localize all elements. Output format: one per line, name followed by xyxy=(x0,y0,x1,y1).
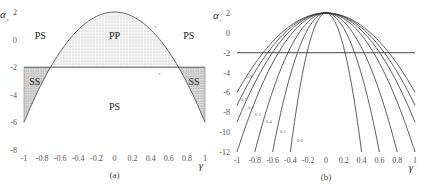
x-tick-label: -0.6 xyxy=(266,156,279,165)
series-curve-0.6 xyxy=(290,13,361,152)
y-tick-label: -2 xyxy=(223,49,230,58)
x-tick-label: 0.6 xyxy=(374,156,384,165)
x-tick-label: 0.2 xyxy=(339,156,349,165)
region-label-ss: SS xyxy=(189,76,200,87)
x-tick-label: -0.2 xyxy=(302,156,315,165)
y-tick-label: -2 xyxy=(10,63,17,72)
series-label: 0.4 xyxy=(265,119,272,124)
series-curve-0.1 xyxy=(237,13,415,105)
region-label-ps: PS xyxy=(35,30,46,41)
x-tick-label: -0.2 xyxy=(90,154,103,163)
x-tick-label: -0.4 xyxy=(72,154,85,163)
x-tick-label: 0.8 xyxy=(182,154,192,163)
x-tick-label: -0.8 xyxy=(36,154,49,163)
x-tick-label: 0.6 xyxy=(164,154,174,163)
curve-label-s: s xyxy=(154,24,156,29)
series-label: 0.5 xyxy=(280,129,287,134)
y-tick-label: -8 xyxy=(223,108,230,117)
series-curve-0.4 xyxy=(255,13,397,152)
x-axis-label: γ xyxy=(199,159,204,171)
y-axis-label-subscript: r xyxy=(7,17,9,22)
panel-caption: (a) xyxy=(110,170,120,180)
y-tick-label: -8 xyxy=(10,146,17,155)
x-axis-label: γ xyxy=(409,161,414,173)
x-tick-label: 0.8 xyxy=(392,156,402,165)
x-tick-label: 1 xyxy=(203,154,207,163)
y-tick-label: -6 xyxy=(223,88,230,97)
series-curve-0.3 xyxy=(237,13,415,152)
x-tick-label: 0.4 xyxy=(146,154,156,163)
region-label-pp: PP xyxy=(109,30,121,41)
panel-a: 20-2-4-6-8-1-0.8-0.6-0.4-0.200.20.40.60.… xyxy=(0,8,207,180)
y-tick-label: 2 xyxy=(226,9,230,18)
y-tick-label: -4 xyxy=(10,91,17,100)
x-tick-label: -1 xyxy=(234,156,241,165)
panel-caption: (b) xyxy=(321,172,332,182)
region-label-ps: PS xyxy=(183,30,194,41)
region-label-ss: SS xyxy=(29,76,40,87)
x-tick-label: 0.4 xyxy=(357,156,367,165)
x-tick-label: 0.2 xyxy=(128,154,138,163)
y-tick-label: -6 xyxy=(10,118,17,127)
y-tick-label: 0 xyxy=(13,36,17,45)
x-tick-label: -0.8 xyxy=(248,156,261,165)
x-tick-label: 0 xyxy=(324,156,328,165)
figure: 20-2-4-6-8-1-0.8-0.6-0.4-0.200.20.40.60.… xyxy=(0,0,426,191)
series-curve-0.5 xyxy=(273,13,380,152)
y-tick-label: -10 xyxy=(219,128,230,137)
y-tick-label: 0 xyxy=(226,29,230,38)
curve-label-r: r xyxy=(159,71,161,76)
series-curve-0.2 xyxy=(237,13,415,122)
y-axis-label: α xyxy=(0,8,6,20)
x-tick-label: -0.6 xyxy=(54,154,67,163)
y-tick-label: -12 xyxy=(219,148,230,157)
panel-b: 20-2-4-6-8-10-12-1-0.8-0.6-0.4-0.200.20.… xyxy=(213,9,417,182)
region-label-ps: PS xyxy=(109,101,120,112)
y-tick-label: -4 xyxy=(223,69,230,78)
series-label: 0.6 xyxy=(297,138,304,143)
y-axis-label: α xyxy=(213,9,219,21)
x-tick-label: -1 xyxy=(21,154,28,163)
x-tick-label: -0.4 xyxy=(284,156,297,165)
y-axis-label-subscript: r xyxy=(220,18,222,23)
x-tick-label: 1 xyxy=(413,156,417,165)
series-label: 0.3 xyxy=(255,112,262,117)
y-tick-label: 2 xyxy=(13,8,17,17)
x-tick-label: 0 xyxy=(113,154,117,163)
